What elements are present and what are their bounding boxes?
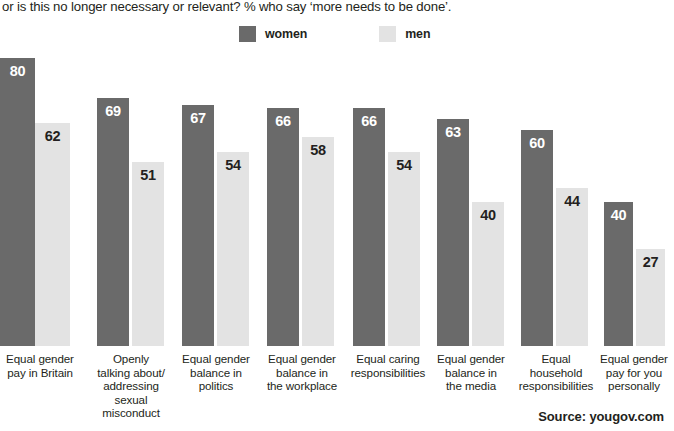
bar-women[interactable]: 40 xyxy=(604,202,633,346)
category-label: Equal genderbalance inthe workplace xyxy=(256,352,348,393)
bar-men[interactable]: 58 xyxy=(302,137,334,346)
bar-men[interactable]: 54 xyxy=(217,152,249,346)
bar-value-label: 54 xyxy=(217,158,249,173)
bar-men[interactable]: 54 xyxy=(388,152,420,346)
bar-value-label: 60 xyxy=(521,136,553,151)
chart-question-text: or is this no longer necessary or releva… xyxy=(2,0,672,15)
bar-value-label: 58 xyxy=(302,143,334,158)
bar-value-label: 27 xyxy=(636,255,665,270)
bar-women[interactable]: 80 xyxy=(0,58,35,346)
category-label-line: balance in xyxy=(428,366,514,380)
legend-item-women[interactable]: women xyxy=(239,26,307,42)
bar-value-label: 63 xyxy=(437,125,469,140)
bar-group: 6044 xyxy=(521,44,588,346)
category-label-line: responsibilities xyxy=(338,366,438,380)
bar-women[interactable]: 67 xyxy=(182,105,214,346)
bar-men[interactable]: 62 xyxy=(35,123,70,346)
bar-value-label: 69 xyxy=(97,104,129,119)
category-label-line: Equal gender xyxy=(256,352,348,366)
category-label-line: the media xyxy=(428,379,514,393)
category-label-line: Equal gender xyxy=(173,352,259,366)
bar-women[interactable]: 66 xyxy=(267,108,299,346)
bar-group: 6654 xyxy=(353,44,420,346)
category-label-line: Equal caring xyxy=(338,352,438,366)
category-label-line: personally xyxy=(594,379,674,393)
category-label: Equal caringresponsibilities xyxy=(338,352,438,379)
bar-value-label: 66 xyxy=(353,114,385,129)
bar-chart: or is this no longer necessary or releva… xyxy=(0,0,674,431)
legend-item-men[interactable]: men xyxy=(379,26,430,42)
legend-swatch-women-icon xyxy=(239,26,256,42)
bar-women[interactable]: 63 xyxy=(437,119,469,346)
category-label-line: Equal gender xyxy=(428,352,514,366)
bar-value-label: 80 xyxy=(0,64,35,79)
category-label: Openlytalking about/addressingsexualmisc… xyxy=(88,352,174,420)
bar-group: 6951 xyxy=(97,44,164,346)
category-label-line: misconduct xyxy=(88,406,174,420)
bar-value-label: 54 xyxy=(388,158,420,173)
bar-women[interactable]: 66 xyxy=(353,108,385,346)
category-label: Equal genderbalance inpolitics xyxy=(173,352,259,393)
bar-value-label: 44 xyxy=(556,194,588,209)
bar-men[interactable]: 51 xyxy=(132,162,164,346)
category-label-line: the workplace xyxy=(256,379,348,393)
plot-area: 80626951675466586654634060444027 xyxy=(0,44,674,346)
category-label-line: addressing xyxy=(88,379,174,393)
bar-men[interactable]: 44 xyxy=(556,188,588,346)
bar-group: 6658 xyxy=(267,44,334,346)
category-label-line: Openly xyxy=(88,352,174,366)
source-note: Source: yougov.com xyxy=(538,409,664,424)
category-axis-labels: Equal genderpay in BritainOpenlytalking … xyxy=(0,352,674,414)
category-label-line: household xyxy=(506,366,606,380)
category-label-line: pay in Britain xyxy=(0,366,80,380)
bar-value-label: 40 xyxy=(604,208,633,223)
bar-value-label: 67 xyxy=(182,111,214,126)
bar-women[interactable]: 60 xyxy=(521,130,553,346)
legend-label-men: men xyxy=(405,27,430,41)
category-label-line: Equal gender xyxy=(0,352,80,366)
bar-men[interactable]: 40 xyxy=(472,202,504,346)
category-label: Equal genderbalance inthe media xyxy=(428,352,514,393)
category-label-line: Equal gender xyxy=(594,352,674,366)
category-label: Equalhouseholdresponsibilities xyxy=(506,352,606,393)
category-label-line: politics xyxy=(173,379,259,393)
bar-value-label: 51 xyxy=(132,168,164,183)
category-label-line: pay for you xyxy=(594,366,674,380)
category-label-line: balance in xyxy=(256,366,348,380)
bar-value-label: 62 xyxy=(35,129,70,144)
category-label: Equal genderpay for youpersonally xyxy=(594,352,674,393)
bar-group: 6340 xyxy=(437,44,504,346)
category-label: Equal genderpay in Britain xyxy=(0,352,80,379)
category-label-line: Equal xyxy=(506,352,606,366)
category-label-line: responsibilities xyxy=(506,379,606,393)
category-label-line: sexual xyxy=(88,393,174,407)
bar-group: 8062 xyxy=(0,44,70,346)
bar-value-label: 66 xyxy=(267,114,299,129)
legend-swatch-men-icon xyxy=(379,26,396,42)
bar-men[interactable]: 27 xyxy=(636,249,665,346)
category-label-line: talking about/ xyxy=(88,366,174,380)
bar-value-label: 40 xyxy=(472,208,504,223)
legend-label-women: women xyxy=(265,27,307,41)
bar-group: 4027 xyxy=(604,44,665,346)
bar-group: 6754 xyxy=(182,44,249,346)
bar-women[interactable]: 69 xyxy=(97,98,129,346)
category-label-line: balance in xyxy=(173,366,259,380)
chart-legend: women men xyxy=(239,25,430,43)
